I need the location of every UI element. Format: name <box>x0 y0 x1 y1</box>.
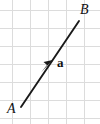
vector-diagram: A B a <box>0 0 100 124</box>
vector-label: a <box>57 56 64 69</box>
point-label-b-end: B <box>80 3 89 17</box>
point-label-a-start: A <box>7 102 16 116</box>
